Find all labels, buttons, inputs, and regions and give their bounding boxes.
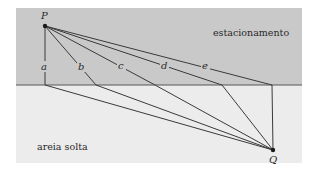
path-d-label: d — [161, 60, 167, 71]
parking-sand-path-diagram: P Q a b c d e estacionamento areia solta — [0, 0, 315, 176]
path-b-label: b — [78, 61, 84, 72]
point-q-dot — [271, 148, 275, 152]
path-c-label: c — [118, 60, 124, 71]
point-p-label: P — [40, 10, 48, 21]
point-p-dot — [43, 24, 47, 28]
sand-label: areia solta — [37, 141, 88, 152]
path-e-label: e — [202, 60, 208, 71]
point-q-label: Q — [269, 154, 277, 165]
parking-label: estacionamento — [213, 27, 289, 38]
parking-region — [16, 8, 302, 85]
path-a-label: a — [41, 61, 47, 72]
